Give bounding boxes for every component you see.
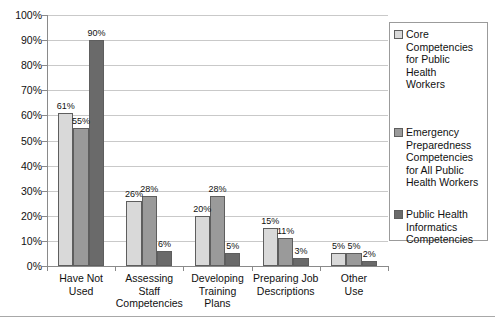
y-axis-tick-mark [42, 90, 48, 91]
legend-label-line: Core [406, 28, 473, 41]
x-axis-category-label-line: Plans [179, 297, 255, 310]
y-axis-tick-label: 0% [2, 261, 42, 272]
x-axis-tick-mark [47, 266, 48, 271]
legend-entry[interactable]: EmergencyPreparednessCompetenciesfor All… [394, 126, 486, 189]
bar [142, 196, 157, 266]
bar-value-label: 90% [83, 29, 110, 38]
legend-label-line: Health [406, 66, 473, 79]
x-axis-category-label-line: Have Not [43, 272, 119, 285]
chart-legend: CoreCompetenciesfor PublicHealthWorkersE… [389, 22, 488, 241]
x-axis-tick-mark [183, 266, 184, 271]
x-axis-category-label-line: Assessing [111, 272, 187, 285]
x-axis-line [47, 266, 389, 267]
bar [73, 128, 88, 266]
y-axis-tick-label: 20% [2, 211, 42, 222]
legend-entry[interactable]: CoreCompetenciesfor PublicHealthWorkers [394, 28, 486, 91]
x-axis-category-label: OtherUse [316, 272, 392, 297]
bar-value-label: 28% [204, 185, 231, 194]
x-axis-tick-mark [115, 266, 116, 271]
y-axis-tick-label: 70% [2, 85, 42, 96]
y-axis-tick-mark [42, 40, 48, 41]
bar-value-label: 2% [356, 250, 383, 259]
legend-label: EmergencyPreparednessCompetenciesfor All… [406, 126, 478, 189]
legend-label-line: Workers [406, 78, 473, 91]
bar-value-label: 61% [52, 102, 79, 111]
x-axis-tick-mark [252, 266, 253, 271]
legend-entry[interactable]: Public HealthInformaticsCompetencies [394, 208, 486, 246]
bar [293, 258, 308, 266]
y-axis-tick-mark [42, 166, 48, 167]
legend-label: Public HealthInformaticsCompetencies [406, 208, 473, 246]
bar-value-label: 20% [189, 205, 216, 214]
x-axis-category-label: Have NotUsed [43, 272, 119, 297]
x-axis-category-label: DevelopingTrainingPlans [179, 272, 255, 310]
legend-swatch-icon [394, 210, 403, 219]
y-axis-tick-mark [42, 241, 48, 242]
y-axis-tick-labels: 0%10%20%30%40%50%60%70%80%90%100% [0, 0, 42, 326]
y-axis-tick-mark [42, 65, 48, 66]
bar-value-label: 28% [136, 185, 163, 194]
x-axis-category-label-line: Used [43, 285, 119, 298]
y-axis-tick-label: 40% [2, 161, 42, 172]
legend-label: CoreCompetenciesfor PublicHealthWorkers [406, 28, 473, 91]
bar-value-label: 11% [272, 227, 299, 236]
legend-swatch-icon [394, 128, 403, 137]
x-axis-category-label-line: Preparing Job [248, 272, 324, 285]
bar [58, 113, 73, 266]
y-axis-tick-label: 100% [2, 10, 42, 21]
y-axis-tick-label: 90% [2, 35, 42, 46]
bar [331, 253, 346, 266]
x-axis-category-label-line: Training [179, 285, 255, 298]
gridline [47, 15, 388, 16]
x-axis-tick-mark [388, 266, 389, 271]
y-axis-tick-label: 60% [2, 110, 42, 121]
y-axis-tick-label: 80% [2, 60, 42, 71]
bar-value-label: 3% [287, 247, 314, 256]
y-axis-tick-mark [42, 191, 48, 192]
x-axis-category-label: AssessingStaffCompetencies [111, 272, 187, 310]
legend-swatch-icon [394, 30, 403, 39]
bar-chart-figure: 0%10%20%30%40%50%60%70%80%90%100% CoreCo… [0, 0, 495, 326]
legend-label-line: Health Workers [406, 176, 478, 189]
bar [89, 40, 104, 266]
x-axis-category-label-line: Competencies [111, 297, 187, 310]
y-axis-tick-mark [42, 216, 48, 217]
x-axis-category-label-line: Staff [111, 285, 187, 298]
legend-label-line: for All Public [406, 164, 478, 177]
x-axis-category-label-line: Other [316, 272, 392, 285]
bar [126, 201, 141, 266]
bar-value-label: 6% [151, 240, 178, 249]
y-axis-tick-label: 30% [2, 186, 42, 197]
x-axis-category-label-line: Descriptions [248, 285, 324, 298]
x-axis-tick-mark [320, 266, 321, 271]
legend-label-line: Competencies [406, 151, 478, 164]
plot-area [47, 15, 388, 266]
bottom-divider-rule [0, 316, 495, 317]
bar [195, 216, 210, 266]
legend-label-line: Informatics [406, 221, 473, 234]
bar [157, 251, 172, 266]
y-axis-tick-mark [42, 115, 48, 116]
legend-label-line: Emergency [406, 126, 478, 139]
legend-label-line: Preparedness [406, 139, 478, 152]
legend-label-line: Competencies [406, 41, 473, 54]
bar-value-label: 5% [219, 242, 246, 251]
bar-value-label: 15% [257, 217, 284, 226]
x-axis-category-label-line: Use [316, 285, 392, 298]
y-axis-tick-mark [42, 141, 48, 142]
legend-label-line: Competencies [406, 233, 473, 246]
bar-value-label: 55% [67, 117, 94, 126]
y-axis-tick-label: 10% [2, 236, 42, 247]
x-axis-category-label-line: Developing [179, 272, 255, 285]
x-axis-category-label: Preparing JobDescriptions [248, 272, 324, 297]
bar [225, 253, 240, 266]
legend-label-line: for Public [406, 53, 473, 66]
y-axis-tick-label: 50% [2, 136, 42, 147]
y-axis-tick-mark [42, 15, 48, 16]
legend-label-line: Public Health [406, 208, 473, 221]
